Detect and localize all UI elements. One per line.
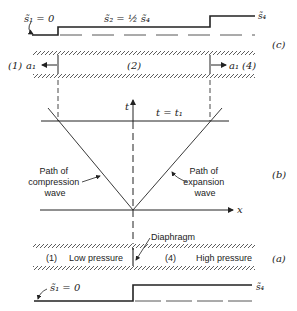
region-mid-c: (2)	[127, 60, 141, 71]
tube-bottom-wall-a	[33, 266, 255, 270]
region-left-c: (1)	[8, 60, 22, 71]
entropy-right-label-a: s̃₄	[256, 282, 265, 292]
tube-bottom-wall-c	[33, 74, 255, 78]
region-left-num-a: (1)	[46, 253, 57, 263]
t-axis-label: t	[125, 101, 130, 112]
diaphragm-label: Diaphragm	[151, 232, 195, 242]
entropy-left-label-a: s̃₁ = 0	[50, 282, 81, 293]
panel-label-c: (c)	[272, 39, 286, 50]
tube-top-wall-c	[33, 51, 255, 55]
speed-left-c: a₁	[26, 60, 36, 71]
region-right-c: (4)	[242, 60, 256, 71]
panel-b: t t = t₁ x Path of compression wave Path…	[28, 80, 286, 252]
panel-label-b: (b)	[272, 169, 286, 180]
diaphragm-pointer	[136, 238, 150, 260]
panel-c: s̃₁ = 0 s̃₂ = ½ s̃₄ s̃₄ (c) (1) a₁ (2) a…	[8, 11, 286, 78]
time-line-label: t = t₁	[156, 107, 183, 118]
region-left-text-a: Low pressure	[69, 253, 123, 263]
entropy-mid-label-c: s̃₂ = ½ s̃₄	[104, 13, 150, 24]
entropy-left-pointer-a	[38, 289, 47, 299]
speed-right-c: a₁	[229, 60, 239, 71]
region-right-num-a: (4)	[165, 253, 176, 263]
entropy-left-label-c: s̃₁ = 0	[24, 13, 55, 24]
shock-tube-diagram: s̃₁ = 0 s̃₂ = ½ s̃₄ s̃₄ (c) (1) a₁ (2) a…	[0, 0, 297, 311]
panel-a: Diaphragm (1) Low pressure (4) High pres…	[33, 232, 286, 301]
panel-label-a: (a)	[272, 253, 286, 264]
entropy-right-label-c: s̃₄	[258, 11, 267, 21]
x-axis-label: x	[237, 204, 243, 215]
region-right-text-a: High pressure	[196, 253, 252, 263]
compression-pointer	[82, 176, 100, 182]
compression-label: Path of compression wave	[28, 166, 82, 198]
expansion-label: Path of expansion wave	[183, 166, 227, 198]
